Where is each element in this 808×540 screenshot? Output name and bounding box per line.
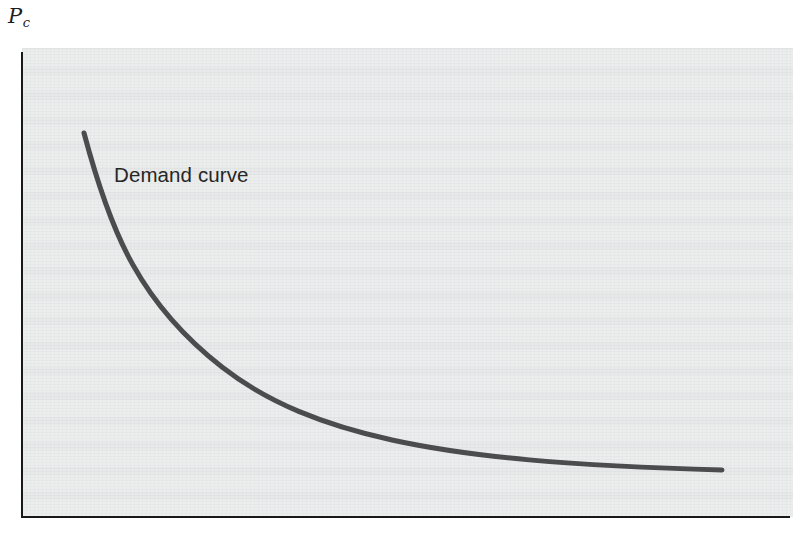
plot-panel: [22, 48, 793, 517]
y-axis-label: Pc: [8, 6, 30, 29]
x-axis-line: [21, 516, 790, 518]
demand-curve-figure: Pc Demand curve: [0, 0, 808, 540]
demand-curve-label: Demand curve: [114, 165, 249, 186]
y-axis-label-subscript: c: [23, 15, 30, 30]
y-axis-line: [21, 52, 23, 518]
y-axis-label-symbol: P: [8, 4, 22, 28]
